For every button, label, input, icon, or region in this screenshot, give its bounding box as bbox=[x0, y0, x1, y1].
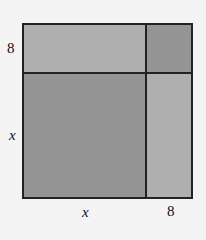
area-model-square bbox=[22, 23, 193, 199]
horizontal-divider bbox=[24, 72, 191, 74]
region-top-left-x-by-8 bbox=[24, 25, 145, 72]
region-bottom-left-x-by-x bbox=[24, 74, 145, 197]
label-left-bottom: x bbox=[9, 128, 16, 143]
label-left-top: 8 bbox=[7, 41, 15, 56]
label-bottom-left: x bbox=[82, 205, 89, 220]
region-top-right-8-by-8 bbox=[147, 25, 191, 72]
vertical-divider bbox=[145, 25, 147, 197]
region-bottom-right-8-by-x bbox=[147, 74, 191, 197]
label-bottom-right: 8 bbox=[167, 204, 175, 219]
